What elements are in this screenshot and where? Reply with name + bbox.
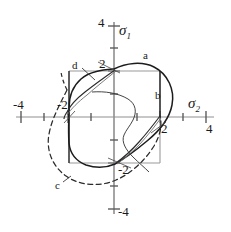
curve-d-locus-secondary xyxy=(67,71,116,115)
figure-container: 4 σ1 2 -2 -4 -4 -2 2 4 σ2 a b c d xyxy=(0,0,231,232)
curve-c-dashed-upper-tail xyxy=(61,72,67,90)
y-tick-label-2: 2 xyxy=(99,57,106,70)
y-axis-title: σ1 xyxy=(119,23,131,41)
y-axis-title-subscript: 1 xyxy=(126,31,131,41)
y-tick-label-neg2: -2 xyxy=(118,163,129,176)
curve-a-outer-locus xyxy=(69,63,173,167)
y-tick-label-4: 4 xyxy=(98,16,105,29)
x-tick-label-neg4: -4 xyxy=(13,98,24,111)
yield-locus-plot xyxy=(0,0,231,232)
curve-d-lower-flank xyxy=(116,116,160,163)
x-tick-label-2: 2 xyxy=(161,122,168,135)
axis-group xyxy=(16,22,214,214)
x-tick-label-neg2: -2 xyxy=(57,98,68,111)
y-tick-label-neg4: -4 xyxy=(118,205,129,218)
curve-label-c: c xyxy=(55,180,60,191)
curve-label-b: b xyxy=(155,90,161,101)
x-axis-title: σ2 xyxy=(188,96,200,114)
curve-label-a: a xyxy=(143,50,148,61)
curve-label-d: d xyxy=(72,60,78,71)
x-axis-title-subscript: 2 xyxy=(195,104,200,114)
corner-chords xyxy=(64,62,166,168)
leader-line-d xyxy=(82,68,95,80)
x-tick-label-4: 4 xyxy=(206,122,213,135)
